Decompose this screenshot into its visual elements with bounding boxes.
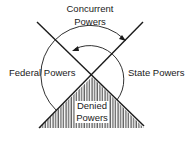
denied-line2: Powers [72,113,112,123]
denied-line1: Denied [72,101,112,111]
denied-powers-label: Denied Powers [72,101,112,123]
concurrent-line1: Concurrent [64,4,116,14]
concurrent-line2: Powers [64,17,116,27]
state-powers-label: State Powers [128,68,185,78]
concurrent-powers-label: Concurrent Powers [64,4,116,27]
federal-powers-label: Federal Powers [9,68,76,78]
arrowhead-left-icon [72,46,79,51]
